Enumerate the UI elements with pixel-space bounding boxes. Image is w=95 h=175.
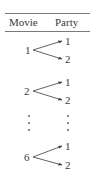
arrow-icon <box>33 41 62 50</box>
arrow-icon <box>33 91 62 100</box>
ellipsis-party <box>67 115 69 136</box>
party-label: 1 <box>65 76 71 88</box>
arrow-icon <box>33 157 62 165</box>
arrow-icon <box>33 146 62 157</box>
movie-label: 2 <box>24 85 30 97</box>
group-1-arrows <box>33 41 62 59</box>
group-2-arrows <box>33 82 62 100</box>
party-label: 1 <box>65 140 71 152</box>
party-label: 2 <box>65 53 71 65</box>
party-label: 2 <box>65 159 71 171</box>
arrows-layer <box>0 0 95 175</box>
party-label: 1 <box>65 35 71 47</box>
party-label: 2 <box>65 94 71 106</box>
group-6-arrows <box>33 146 62 165</box>
arrow-icon <box>33 50 62 59</box>
ellipsis-movie <box>28 115 30 136</box>
arrow-icon <box>33 82 62 91</box>
movie-label: 6 <box>24 151 30 163</box>
movie-label: 1 <box>25 44 31 56</box>
